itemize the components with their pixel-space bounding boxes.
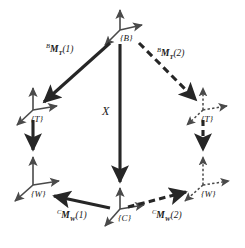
transform-label-B-to-T-2: BMT(2)	[157, 47, 185, 61]
transform-arrow-C-to-W-1	[54, 196, 110, 208]
frame-label-W-right: {W}	[201, 190, 216, 199]
transform-arrow-C-to-W-2	[128, 192, 186, 207]
frame-label-B: {B}	[120, 34, 133, 43]
transform-label-X: X	[102, 105, 109, 117]
frame-label-T-right: {T}	[201, 115, 213, 124]
transform-arg-1: (1)	[62, 44, 73, 54]
transform-base-M-3: M	[61, 210, 69, 220]
frame-label-C: {C}	[118, 214, 131, 223]
hand-eye-calibration-diagram: {B} {T} {T} {W} {W} {C} X BMT(1) BMT(2) …	[0, 0, 245, 248]
transform-base-M-4: M	[156, 210, 164, 220]
transform-arg-3: (1)	[76, 210, 87, 220]
transform-label-B-to-T-1: BMT(1)	[46, 43, 74, 57]
frame-label-W-left: {W}	[31, 190, 46, 199]
transform-arg-4: (2)	[171, 210, 182, 220]
transform-label-C-to-W-1: CMW(1)	[57, 209, 87, 223]
frame-label-T-left: {T}	[31, 115, 43, 124]
transform-label-C-to-W-2: CMW(2)	[152, 209, 182, 223]
transform-arg-2: (2)	[173, 48, 184, 58]
